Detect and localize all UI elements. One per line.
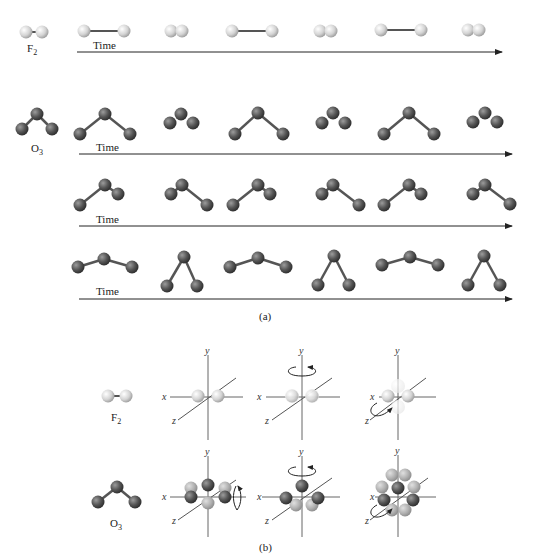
o3-frame-left-long	[227, 179, 277, 212]
time-label: Time	[96, 285, 119, 297]
f2-frame-compressed	[165, 25, 189, 38]
o3-axes-rotation-x: x y z	[161, 446, 246, 537]
time-label: Time	[96, 141, 119, 153]
o3-bending-row: Time	[72, 250, 513, 300]
o3-label: O3	[110, 517, 122, 532]
f2-frame-stretched	[226, 25, 279, 38]
o3-frame-stretched	[378, 107, 441, 141]
o3-axes-rotation-y: x y z	[256, 446, 340, 537]
y-axis-label: y	[394, 445, 400, 456]
o3-asymmetric-stretch-row: Time	[74, 179, 517, 227]
o3-frame-compressed	[316, 107, 352, 130]
z-axis	[178, 378, 236, 420]
o3-frame-open	[224, 252, 293, 274]
o3-frame-open	[72, 253, 139, 274]
o3-frame-left-long	[74, 179, 125, 212]
y-axis-label: y	[298, 345, 304, 356]
z-axis-label: z	[364, 515, 369, 526]
o3-frame-closed	[462, 250, 507, 292]
panel-b: F2 x y z x y z	[92, 345, 437, 554]
molecular-motion-diagram: F2	[0, 0, 535, 560]
y-axis-label: y	[204, 446, 210, 457]
f2-axes-rotation-z: x y z	[364, 345, 436, 440]
f2-axes-rotation-y: x y z	[256, 345, 340, 440]
f2-axes-static: x y z	[161, 345, 243, 440]
y-axis-label: y	[394, 345, 400, 356]
o3-frame-closed	[312, 250, 356, 292]
o3-frame-compressed	[164, 108, 200, 130]
f2-label: F2	[111, 411, 121, 426]
z-axis-label: z	[364, 415, 369, 426]
panel-a-caption: (a)	[259, 310, 272, 323]
f2-frame-compressed	[462, 24, 486, 37]
z-axis-label: z	[264, 415, 269, 426]
o3-reference-molecule	[92, 481, 142, 509]
f2-frame-stretched	[78, 25, 131, 38]
f2-reference-molecule	[20, 26, 49, 39]
z-axis-label: z	[171, 415, 176, 426]
x-axis-label: x	[369, 391, 375, 402]
f2-reference-molecule	[102, 390, 133, 403]
o3-frame-closed	[161, 251, 204, 293]
o3-frame-left-long	[378, 179, 428, 212]
o3-frame-compressed	[467, 107, 504, 129]
x-axis-label: x	[256, 491, 262, 502]
f2-label: F2	[27, 42, 37, 57]
y-axis-label: y	[204, 345, 210, 356]
f2-frame-stretched	[375, 24, 428, 37]
o3-frame-stretched	[229, 107, 290, 141]
time-label: Time	[96, 213, 119, 225]
z-axis-label: z	[264, 515, 269, 526]
z-axis-label: z	[171, 515, 176, 526]
x-axis-label: x	[161, 391, 167, 402]
o3-frame-open	[376, 251, 445, 272]
rotation-arrow-icon	[233, 486, 240, 510]
panel-b-caption: (b)	[259, 541, 272, 554]
x-axis-label: x	[369, 491, 375, 502]
f2-frame-compressed	[314, 25, 338, 38]
rotation-arrow-icon	[371, 403, 392, 416]
x-axis-label: x	[161, 491, 167, 502]
o3-frame-stretched	[74, 108, 137, 141]
o3-frame-right-long	[467, 179, 517, 211]
panel-a: F2	[16, 24, 517, 324]
o3-axes-rotation-z: x y z	[364, 445, 436, 537]
x-axis-label: x	[256, 391, 262, 402]
o3-symmetric-stretch-row: O3	[16, 107, 513, 158]
f2-vibration-row: F2	[20, 24, 503, 58]
o3-label: O3	[31, 142, 43, 157]
o3-frame-right-long	[316, 179, 366, 212]
time-label: Time	[93, 39, 116, 51]
o3-frame-right-long	[165, 179, 214, 212]
o3-reference-molecule	[16, 108, 59, 136]
y-axis-label: y	[298, 446, 304, 457]
